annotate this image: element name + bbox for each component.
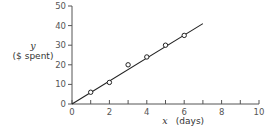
y-tick-label: 40 bbox=[55, 21, 66, 31]
data-point bbox=[145, 55, 149, 59]
data-point bbox=[182, 33, 186, 37]
y-tick-label: 50 bbox=[55, 1, 66, 11]
y-tick-label: 10 bbox=[55, 79, 66, 89]
data-point bbox=[89, 90, 93, 94]
y-axis-unit: ($ spent) bbox=[13, 51, 54, 61]
x-axis-unit: (days) bbox=[176, 116, 204, 126]
y-tick-label: 0 bbox=[61, 99, 66, 109]
x-tick-label: 0 bbox=[69, 107, 74, 117]
x-axis-variable: x bbox=[162, 115, 168, 126]
data-point bbox=[126, 63, 130, 67]
x-tick-label: 4 bbox=[144, 107, 149, 117]
y-tick-label: 30 bbox=[55, 40, 66, 50]
x-tick-label: 2 bbox=[107, 107, 112, 117]
y-tick-labels: 01020304050 bbox=[55, 1, 66, 109]
y-axis-variable: y bbox=[29, 40, 36, 51]
scatter-chart: 01020304050 0246810 y ($ spent) x (days) bbox=[0, 0, 276, 133]
data-point bbox=[107, 80, 111, 84]
x-tick-label: 10 bbox=[254, 107, 265, 117]
x-tick-label: 8 bbox=[219, 107, 224, 117]
y-tick-label: 20 bbox=[55, 60, 66, 70]
data-point bbox=[163, 43, 167, 47]
